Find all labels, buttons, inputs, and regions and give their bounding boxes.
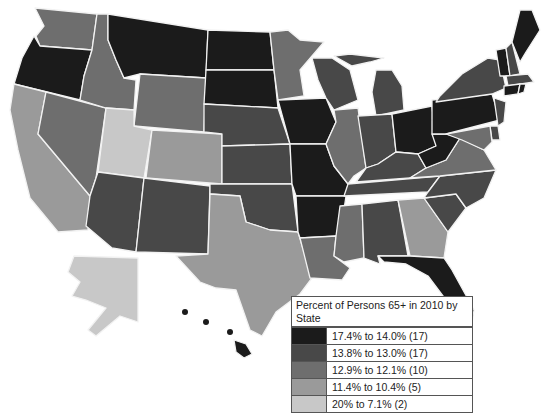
legend-label: 12.9% to 12.1% (10) [327,362,428,378]
legend-item: 12.9% to 12.1% (10) [292,361,472,378]
state-HI-maui [227,329,233,335]
state-MS [334,204,364,262]
state-HI-oahu [203,319,209,325]
state-RI [518,84,526,94]
legend-swatch [292,396,327,412]
legend-title: Percent of Persons 65+ in 2010 by State [292,297,472,327]
legend-item: 17.4% to 14.0% (17) [292,327,472,344]
legend-item: 11.4% to 10.4% (5) [292,378,472,395]
state-HI-big [234,340,252,358]
legend-label: 17.4% to 14.0% (17) [327,328,428,344]
state-CO [146,130,222,184]
state-ME [512,10,540,62]
state-AZ [86,172,144,252]
legend-item: 20% to 7.1% (2) [292,395,472,412]
state-KS [222,144,292,184]
legend-label: 11.4% to 10.4% (5) [327,379,421,395]
state-NY [436,58,506,102]
state-ND [206,30,274,70]
legend-item: 13.8% to 13.0% (17) [292,344,472,361]
legend-swatch [292,379,327,395]
state-WY [134,74,206,132]
state-OH [392,106,436,154]
legend-swatch [292,328,327,344]
legend-label: 13.8% to 13.0% (17) [327,345,428,361]
state-SD [204,70,278,108]
legend-swatch [292,362,327,378]
state-MT [108,14,208,78]
state-WA [35,8,97,50]
state-NM [136,178,210,254]
legend-swatch [292,345,327,361]
state-AK [68,256,138,336]
legend-label: 20% to 7.1% (2) [327,396,407,412]
map-legend: Percent of Persons 65+ in 2010 by State … [291,296,473,413]
state-HI-kauai [182,309,188,315]
state-NJ [494,98,506,126]
state-MI [372,70,404,116]
